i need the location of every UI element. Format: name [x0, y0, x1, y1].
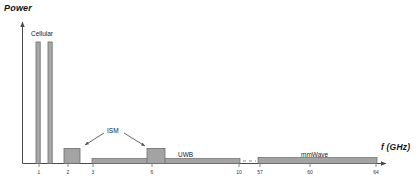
- band-uwb: [92, 159, 240, 164]
- bar-cellular-2: [48, 42, 52, 164]
- tick-label-60: 60: [307, 169, 313, 175]
- tick-label-64: 64: [373, 169, 379, 175]
- tick-label-2: 2: [67, 169, 70, 175]
- bar-ism-6000: [147, 149, 165, 164]
- tick-label-1: 1: [38, 169, 41, 175]
- tick-label-10: 10: [236, 169, 242, 175]
- tick-label-3: 3: [92, 169, 95, 175]
- ism-arrow-right: [124, 133, 145, 146]
- x-axis-ticks: 123610576064: [38, 164, 379, 176]
- bar-cellular-1: [36, 42, 40, 164]
- bar-ism-2400: [64, 149, 80, 164]
- plot-canvas: 123610576064: [0, 0, 417, 182]
- ism-arrow-left: [85, 133, 104, 145]
- spectrum-diagram: Power f (GHz) Cellular ISM UWB mmWave: [0, 0, 417, 182]
- tick-label-6: 6: [151, 169, 154, 175]
- tick-label-57: 57: [257, 169, 263, 175]
- band-mmwave: [258, 158, 377, 164]
